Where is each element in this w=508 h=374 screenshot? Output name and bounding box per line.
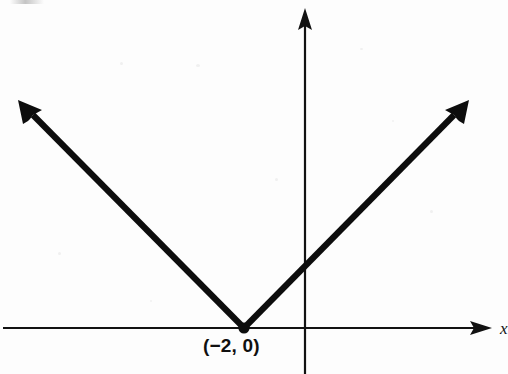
graph-right-branch xyxy=(244,100,469,328)
left-ray-line xyxy=(33,115,244,328)
y-axis-group xyxy=(298,8,312,374)
vertex-point-dot xyxy=(238,322,249,333)
graph-figure: x (−2, 0) xyxy=(0,0,508,374)
right-ray-line xyxy=(244,115,454,328)
vertex-coordinate-label: (−2, 0) xyxy=(203,336,260,355)
coordinate-plane-svg: x xyxy=(0,0,508,374)
graph-left-branch xyxy=(18,100,244,328)
x-axis-label: x xyxy=(499,319,508,338)
